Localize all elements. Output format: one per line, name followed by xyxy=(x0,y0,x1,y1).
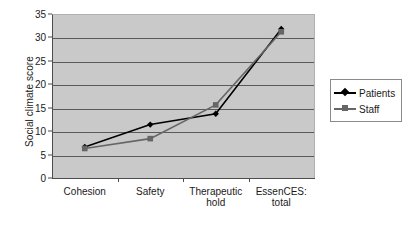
y-tick-mark xyxy=(48,60,52,61)
marker-shape xyxy=(341,88,349,96)
plot-right-edge xyxy=(314,14,315,178)
y-tick-mark xyxy=(48,178,52,179)
legend-sample xyxy=(334,87,356,99)
series-layer xyxy=(52,14,314,178)
diamond-marker-icon xyxy=(342,89,348,95)
y-tick-label: 20 xyxy=(20,79,46,90)
x-tick-label-line: total xyxy=(235,197,327,208)
y-tick-mark xyxy=(48,84,52,85)
y-tick-label: 30 xyxy=(20,32,46,43)
line-chart: Social climate score 05101520253035 Cohe… xyxy=(0,0,406,235)
x-tick-mark xyxy=(118,178,119,182)
y-tick-label: 35 xyxy=(20,9,46,20)
data-point-staff xyxy=(278,29,284,35)
x-tick-label: EssenCES:total xyxy=(235,186,327,208)
y-tick-mark xyxy=(48,14,52,15)
y-tick-label: 0 xyxy=(20,173,46,184)
legend-label: Staff xyxy=(359,104,379,115)
legend: PatientsStaff xyxy=(330,79,402,122)
legend-item-staff: Staff xyxy=(334,102,379,116)
y-axis-tick-labels: 05101520253035 xyxy=(20,0,46,235)
y-tick-label: 10 xyxy=(20,126,46,137)
x-tick-mark xyxy=(249,178,250,182)
legend-item-patients: Patients xyxy=(334,86,395,100)
data-point-staff xyxy=(147,136,153,142)
series-line-staff xyxy=(85,32,282,149)
y-tick-mark xyxy=(48,154,52,155)
x-tick-mark xyxy=(183,178,184,182)
square-marker-icon xyxy=(342,105,348,111)
legend-label: Patients xyxy=(359,88,395,99)
y-tick-mark xyxy=(48,37,52,38)
data-point-staff xyxy=(213,102,219,108)
data-point-staff xyxy=(82,146,88,152)
series-line-patients xyxy=(85,29,282,147)
y-tick-label: 25 xyxy=(20,55,46,66)
x-tick-label-line: EssenCES: xyxy=(235,186,327,197)
y-tick-mark xyxy=(48,107,52,108)
legend-sample xyxy=(334,103,356,115)
marker-shape xyxy=(342,105,348,111)
y-tick-label: 15 xyxy=(20,102,46,113)
data-point-patients xyxy=(147,121,153,127)
y-tick-mark xyxy=(48,131,52,132)
y-tick-label: 5 xyxy=(20,149,46,160)
